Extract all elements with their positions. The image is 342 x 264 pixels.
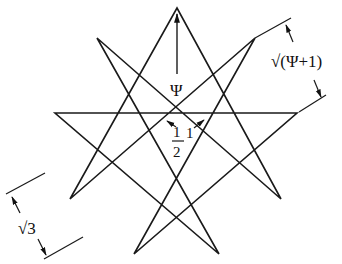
dim-arrow-sqrt3-top <box>12 197 20 213</box>
sqrt-psi-plus-one-label: √(Ψ+1) <box>271 52 322 71</box>
sqrt-three-label: √3 <box>18 219 36 238</box>
one-label: 1 <box>186 125 194 141</box>
psi-label: Ψ <box>170 81 183 100</box>
dim-arrow-top <box>286 25 293 42</box>
ext-line-right <box>299 95 326 112</box>
ext-line-upper-right <box>255 18 291 38</box>
dim-arrow-sqrt3-bottom <box>38 239 46 255</box>
ext-line-lower-left-bottom <box>44 237 83 259</box>
half-denominator: 2 <box>173 144 181 160</box>
ext-line-lower-left-top <box>6 173 45 194</box>
half-numerator: 1 <box>173 124 181 140</box>
dim-arrow-bottom <box>314 80 321 97</box>
enneagram-diagram: Ψ 1 2 1 √(Ψ+1) √3 <box>0 0 342 264</box>
